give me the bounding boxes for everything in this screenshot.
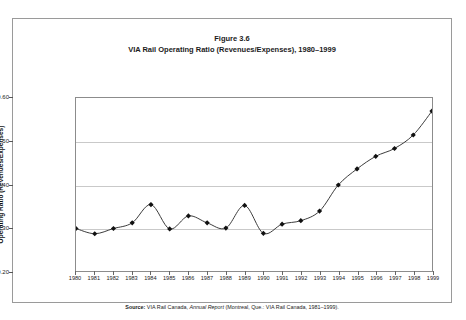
x-axis-tick-mark	[188, 271, 189, 275]
x-axis-tick-label: 1993	[314, 275, 326, 281]
y-axis-tick-label: 0.20	[0, 269, 9, 275]
x-axis-tick-mark	[376, 271, 377, 275]
x-axis-tick-mark	[395, 271, 396, 275]
data-point-marker	[280, 222, 285, 227]
x-axis-tick-label: 1983	[125, 275, 137, 281]
source-publication-title: Annual Report	[189, 304, 223, 310]
x-axis-tick-label: 1981	[88, 275, 100, 281]
x-axis-tick-label: 1986	[182, 275, 194, 281]
plot-area	[75, 97, 433, 272]
x-axis-tick-label: 1982	[106, 275, 118, 281]
line-chart-series	[76, 98, 432, 272]
x-axis-tick-mark	[414, 271, 415, 275]
x-axis-tick-mark	[358, 271, 359, 275]
y-axis-tick-label: 0.30	[0, 225, 9, 231]
x-axis-tick-mark	[94, 271, 95, 275]
x-axis-tick-label: 1984	[144, 275, 156, 281]
x-axis-tick-label: 1985	[163, 275, 175, 281]
y-axis-tick-mark	[9, 141, 13, 142]
source-label: Source:	[125, 304, 145, 310]
x-axis-tick-mark	[113, 271, 114, 275]
y-axis-tick-label: 0.60	[0, 94, 9, 100]
data-point-marker	[298, 218, 303, 223]
x-axis-tick-label: 1990	[257, 275, 269, 281]
figure-title-block: Figure 3.6 VIA Rail Operating Ratio (Rev…	[13, 33, 451, 55]
source-text-after: (Montreal, Que.: VIA Rail Canada, 1981–1…	[224, 304, 339, 310]
x-axis-tick-label: 1989	[238, 275, 250, 281]
data-point-marker	[92, 231, 97, 236]
x-axis-tick-label: 1999	[427, 275, 439, 281]
x-axis-tick-mark	[226, 271, 227, 275]
x-axis-tick-mark	[245, 271, 246, 275]
figure-frame: Figure 3.6 VIA Rail Operating Ratio (Rev…	[12, 18, 452, 303]
x-axis-tick-mark	[75, 271, 76, 275]
data-point-marker	[242, 203, 247, 208]
x-axis-tick-label: 1988	[220, 275, 232, 281]
data-point-marker	[76, 226, 79, 231]
x-axis-tick-label: 1995	[351, 275, 363, 281]
x-axis-tick-label: 1994	[333, 275, 345, 281]
x-axis-tick-label: 1992	[295, 275, 307, 281]
x-axis-tick-label: 1997	[389, 275, 401, 281]
figure-number: Figure 3.6	[13, 33, 451, 44]
data-point-marker	[392, 146, 397, 151]
x-axis-tick-mark	[433, 271, 434, 275]
data-point-marker	[186, 213, 191, 218]
y-axis-tick-mark	[9, 185, 13, 186]
x-axis-tick-mark	[339, 271, 340, 275]
y-axis-tick-label: 0.40	[0, 182, 9, 188]
x-axis-tick-mark	[150, 271, 151, 275]
y-axis-tick-mark	[9, 228, 13, 229]
source-text-before: VIA Rail Canada,	[145, 304, 189, 310]
x-axis-tick-mark	[301, 271, 302, 275]
x-axis-tick-label: 1998	[408, 275, 420, 281]
x-axis-tick-labels: 1980198119821983198419851986198719881989…	[75, 275, 433, 289]
page-title: VIA Rail Operating Ratio (Revenues/Expen…	[13, 44, 451, 55]
x-axis-tick-mark	[282, 271, 283, 275]
x-axis-tick-label: 1996	[370, 275, 382, 281]
plot-wrapper	[75, 97, 433, 272]
source-note: Source: VIA Rail Canada, Annual Report (…	[13, 304, 451, 310]
data-point-marker	[111, 226, 116, 231]
y-axis-tick-mark	[9, 97, 13, 98]
data-point-marker	[373, 154, 378, 159]
data-point-marker	[205, 220, 210, 225]
x-axis-tick-mark	[263, 271, 264, 275]
y-axis-tick-mark	[9, 272, 13, 273]
x-axis-tick-mark	[320, 271, 321, 275]
y-axis-tick-label: 0.50	[0, 138, 9, 144]
x-axis-tick-mark	[132, 271, 133, 275]
x-axis-tick-mark	[207, 271, 208, 275]
series-line	[76, 111, 432, 234]
data-point-marker	[148, 202, 153, 207]
x-axis-tick-label: 1980	[69, 275, 81, 281]
x-axis-tick-label: 1991	[276, 275, 288, 281]
x-axis-tick-label: 1987	[201, 275, 213, 281]
x-axis-tick-mark	[169, 271, 170, 275]
